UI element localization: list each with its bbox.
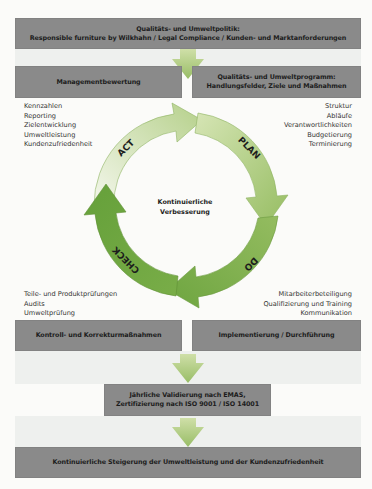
list-item: Qualifizierung und Training: [263, 300, 352, 310]
list-item: Umweltprüfung: [24, 309, 117, 319]
list-item: Teile- und Produktprüfungen: [24, 290, 117, 300]
down-arrow-icon: [170, 352, 206, 385]
center-line-1: Kontinuierliche: [140, 198, 230, 208]
control-box: Kontroll- und Korrekturmaßnahmen: [15, 320, 182, 351]
validation-box: Jährliche Validierung nach EMAS, Zertifi…: [104, 384, 271, 416]
final-goal-box: Kontinuierliche Steigerung der Umweltlei…: [15, 447, 361, 478]
down-arrow-icon: [170, 416, 206, 449]
list-item: Kommunikation: [263, 309, 352, 319]
continuous-improvement-label: Kontinuierliche Verbesserung: [140, 198, 230, 217]
implementation-label: Implementierung / Durchführung: [219, 331, 335, 340]
center-line-2: Verbesserung: [140, 208, 230, 218]
final-goal-label: Kontinuierliche Steigerung der Umweltlei…: [53, 458, 324, 467]
list-item: Audits: [24, 300, 117, 310]
implementation-list: Mitarbeiterbeteiligung Qualifizierung un…: [263, 290, 352, 319]
do-arrow: [168, 216, 278, 308]
implementation-box: Implementierung / Durchführung: [192, 320, 361, 351]
control-label: Kontroll- und Korrekturmaßnahmen: [36, 331, 162, 340]
validation-line-2: Zertifizierung nach ISO 9001 / ISO 14001: [116, 400, 259, 409]
list-item: Mitarbeiterbeteiligung: [263, 290, 352, 300]
control-list: Teile- und Produktprüfungen Audits Umwel…: [24, 290, 117, 319]
validation-line-1: Jährliche Validierung nach EMAS,: [129, 391, 245, 400]
